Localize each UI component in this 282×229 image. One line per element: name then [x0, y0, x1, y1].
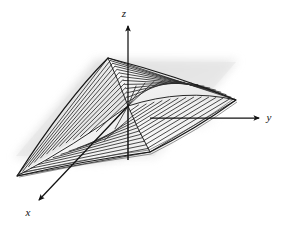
figure-container: z y x [0, 0, 282, 229]
saddle-surface-figure: z y x [0, 0, 282, 229]
z-axis-label: z [121, 7, 127, 19]
x-axis-label: x [25, 206, 31, 218]
y-axis-label: y [266, 111, 272, 123]
